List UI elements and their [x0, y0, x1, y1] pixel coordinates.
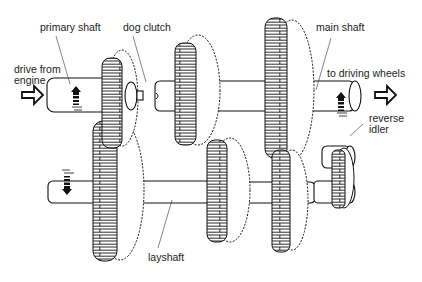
label-reverse-idler-line2: idler — [369, 123, 389, 135]
gearbox-diagram: primary shaft dog clutch main shaft driv… — [0, 0, 422, 282]
output-arrow-icon — [375, 86, 396, 104]
main-gear-1 — [175, 35, 220, 145]
layshaft-gear-2 — [207, 138, 250, 242]
input-arrow-icon — [22, 86, 43, 104]
leader-layshaft — [158, 200, 172, 248]
label-dog-clutch: dog clutch — [123, 21, 171, 33]
dog-clutch-hub — [125, 82, 137, 110]
label-drive-from-engine-line2: engine — [14, 74, 46, 86]
leader-reverse-idler — [350, 124, 363, 136]
dog-clutch-tooth — [137, 91, 143, 100]
label-primary-shaft: primary shaft — [40, 21, 101, 33]
main-gear-2 — [265, 18, 314, 160]
label-main-shaft: main shaft — [316, 21, 365, 33]
label-layshaft: layshaft — [148, 251, 184, 263]
primary-gear — [102, 50, 143, 148]
layshaft-gear-3 — [272, 150, 308, 252]
reverse-idler-gear — [332, 150, 345, 208]
label-to-driving-wheels: to driving wheels — [327, 67, 405, 79]
leader-primary-shaft — [56, 36, 70, 84]
